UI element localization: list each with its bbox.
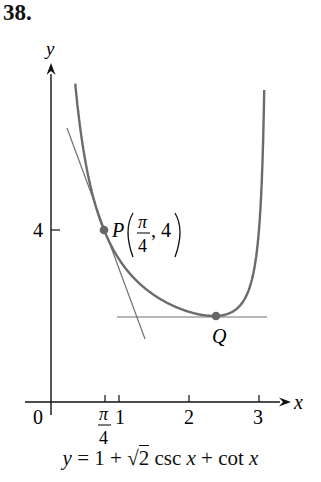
point-p-left-paren (128, 213, 133, 257)
caption-plus-cot: + cot (196, 446, 249, 470)
point-p-den: 4 (138, 236, 147, 256)
equation-caption: y = 1 + √2 csc x + cot x (0, 446, 321, 471)
caption-y: y (63, 446, 72, 470)
x-axis-label: x (293, 391, 303, 413)
point-p-y: , 4 (151, 219, 171, 241)
caption-csc: csc (149, 446, 186, 470)
x-tick-label-4: 4 (99, 428, 108, 448)
point-q-label: Q (212, 325, 227, 347)
x-tick-label-pi: π (99, 404, 109, 424)
graph: y x 0 4 π 4 1 2 3 P π 4 , 4 Q (0, 0, 321, 482)
function-curve (75, 84, 264, 316)
x-tick-label-2: 2 (184, 406, 194, 428)
caption-x2: x (249, 446, 258, 470)
point-p-right-paren (175, 213, 180, 257)
x-tick-label-1: 1 (115, 406, 125, 428)
x-axis-arrow-icon (279, 398, 291, 407)
origin-label: 0 (33, 406, 43, 428)
caption-x1: x (186, 446, 195, 470)
point-p-pi: π (138, 212, 148, 232)
y-axis-arrow-icon (47, 63, 56, 75)
sqrt-icon: √ (127, 446, 139, 470)
y-axis-label: y (44, 38, 55, 59)
point-p (100, 226, 109, 235)
caption-eq: = 1 + (72, 446, 127, 470)
y-tick-label-4: 4 (33, 219, 43, 241)
point-q (212, 312, 221, 321)
x-tick-label-3: 3 (253, 406, 263, 428)
caption-sqrt-arg: 2 (139, 445, 150, 470)
point-p-letter: P (111, 219, 124, 241)
